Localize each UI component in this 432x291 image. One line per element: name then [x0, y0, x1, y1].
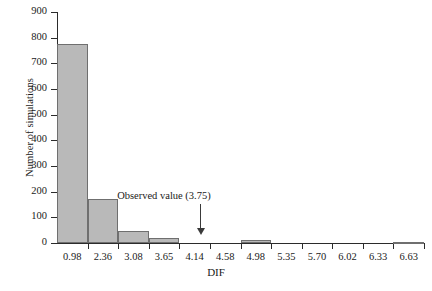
x-tick-mark — [149, 243, 150, 249]
histogram-bar — [393, 242, 424, 244]
y-tick-label: 500 — [0, 109, 47, 120]
x-tick-mark — [332, 243, 333, 249]
y-tick-mark — [51, 243, 57, 244]
histogram-bar — [241, 240, 272, 243]
x-tick-mark — [302, 243, 303, 249]
histogram-figure: Number of simulations 010020030040050060… — [0, 0, 432, 291]
x-tick-mark — [363, 243, 364, 249]
x-tick-mark — [88, 243, 89, 249]
x-tick-mark — [210, 243, 211, 249]
x-tick-mark — [271, 243, 272, 249]
y-tick-label: 200 — [0, 186, 47, 197]
annotation-arrow-stem — [200, 204, 201, 229]
down-arrow-icon — [197, 228, 205, 235]
y-tick-label: 600 — [0, 83, 47, 94]
y-tick-label: 700 — [0, 57, 47, 68]
observed-value-annotation: Observed value (3.75) — [117, 190, 211, 201]
x-tick-mark — [179, 243, 180, 249]
y-tick-label: 800 — [0, 32, 47, 43]
histogram-bar — [149, 238, 180, 243]
x-tick-mark — [241, 243, 242, 249]
y-tick-label: 300 — [0, 160, 47, 171]
x-tick-mark — [118, 243, 119, 249]
x-axis-label: DIF — [0, 266, 432, 278]
x-tick-mark — [424, 243, 425, 249]
histogram-bar — [88, 199, 119, 243]
y-tick-label: 900 — [0, 6, 47, 17]
x-tick-label: 6.63 — [389, 252, 429, 263]
y-tick-label: 100 — [0, 211, 47, 222]
y-tick-mark — [51, 38, 57, 39]
histogram-bar — [57, 44, 88, 243]
x-tick-mark — [393, 243, 394, 249]
y-tick-mark — [51, 12, 57, 13]
y-tick-label: 0 — [0, 237, 47, 248]
histogram-bar — [118, 231, 149, 243]
y-tick-label: 400 — [0, 134, 47, 145]
